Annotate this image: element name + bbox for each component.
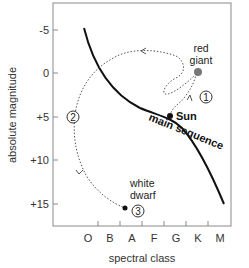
- stage-1-marker: 1: [200, 91, 212, 103]
- y-ticks: [53, 30, 58, 204]
- sun-label: Sun: [176, 110, 197, 122]
- white-dwarf-label-2: dwarf: [130, 189, 156, 201]
- arrow-icon: [76, 170, 83, 174]
- svg-text:3: 3: [135, 206, 141, 217]
- x-tick-label: O: [84, 232, 93, 244]
- svg-text:2: 2: [70, 112, 76, 123]
- x-tick-label: F: [151, 232, 158, 244]
- stage-3-marker: 3: [132, 205, 144, 217]
- red-giant-label-1: red: [193, 42, 208, 54]
- y-tick-label: +10: [30, 154, 49, 166]
- y-tick-label: 0: [43, 67, 49, 79]
- y-tick-label: +15: [30, 198, 49, 210]
- y-tick-label: -5: [39, 24, 49, 36]
- x-tick-label: G: [172, 232, 181, 244]
- stage-2-marker: 2: [67, 111, 79, 123]
- x-tick-label: B: [106, 232, 113, 244]
- x-tick-label: K: [194, 232, 202, 244]
- x-tick-label: M: [215, 232, 224, 244]
- red-giant-dot: [194, 68, 202, 76]
- white-dwarf-dot: [123, 206, 128, 211]
- white-dwarf-label-1: white: [129, 177, 155, 189]
- arrow-icon: [141, 48, 146, 54]
- x-tick-label: A: [128, 232, 136, 244]
- arrow-icon: [187, 95, 192, 101]
- x-ticks: [98, 221, 208, 226]
- x-axis-title: spectral class: [109, 252, 176, 264]
- svg-text:1: 1: [203, 92, 209, 103]
- y-axis-title: absolute magnitude: [6, 67, 18, 163]
- y-tick-label: +5: [36, 111, 49, 123]
- hr-diagram: -5 0 +5 +10 +15 absolute magnitude O B A…: [0, 0, 249, 268]
- red-giant-label-2: giant: [190, 54, 213, 66]
